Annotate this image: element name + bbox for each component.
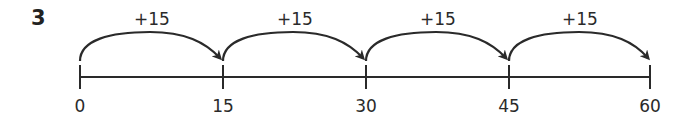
jump-arrow-icon	[366, 32, 506, 61]
jump-arrow-icon	[223, 32, 363, 61]
jump-label: +15	[562, 9, 598, 29]
jump-arrow-icon	[80, 32, 220, 61]
tick-label: 60	[639, 96, 661, 116]
jump-arrow-icon	[509, 32, 648, 61]
tick-label: 30	[355, 96, 377, 116]
tick-labels: 0 15 30 45 60	[75, 96, 661, 116]
tick-label: 0	[75, 96, 86, 116]
jump-arcs	[80, 32, 648, 61]
number-line-diagram: 0 15 30 45 60 +15 +15 +15 +15	[0, 0, 688, 130]
jump-labels: +15 +15 +15 +15	[134, 9, 598, 29]
jump-label: +15	[420, 9, 456, 29]
jump-label: +15	[134, 9, 170, 29]
jump-label: +15	[277, 9, 313, 29]
tick-label: 15	[212, 96, 234, 116]
tick-label: 45	[498, 96, 520, 116]
